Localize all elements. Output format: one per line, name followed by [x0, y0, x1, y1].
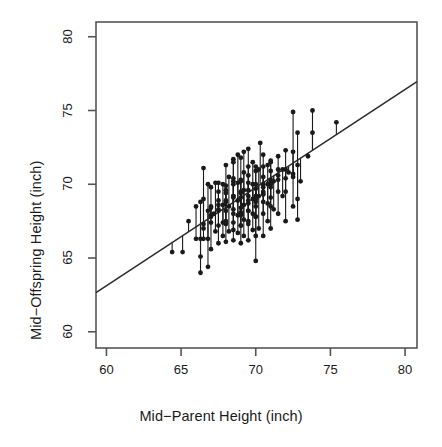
- data-point: [238, 189, 243, 194]
- data-point: [306, 154, 311, 159]
- data-point: [209, 214, 214, 219]
- data-point: [276, 177, 281, 182]
- data-point: [283, 176, 288, 181]
- data-point: [268, 169, 273, 174]
- data-point: [231, 238, 236, 243]
- data-point: [194, 236, 199, 241]
- data-point: [246, 173, 251, 178]
- data-point: [246, 238, 251, 243]
- data-point: [276, 173, 281, 178]
- data-point: [261, 164, 266, 169]
- data-point: [295, 163, 300, 168]
- data-point: [216, 223, 221, 228]
- data-point: [241, 149, 246, 154]
- data-point: [198, 254, 203, 259]
- data-point: [280, 194, 285, 199]
- data-point: [253, 204, 258, 209]
- data-point: [283, 219, 288, 224]
- data-point: [295, 197, 300, 202]
- data-point: [246, 188, 251, 193]
- y-axis-title: Mid−Offspring Height (inch): [28, 161, 44, 340]
- data-point: [271, 207, 276, 212]
- data-point: [180, 250, 185, 255]
- data-point: [250, 160, 255, 165]
- data-point: [261, 174, 266, 179]
- data-point: [291, 149, 296, 154]
- y-tick-label: 70: [60, 171, 75, 197]
- data-point: [246, 180, 251, 185]
- data-point: [291, 110, 296, 115]
- data-point: [223, 239, 228, 244]
- x-axis-title: Mid−Parent Height (inch): [0, 408, 442, 424]
- data-point: [310, 130, 315, 135]
- data-point: [310, 108, 315, 113]
- data-point: [334, 120, 339, 125]
- data-point: [223, 208, 228, 213]
- data-point: [253, 182, 258, 187]
- data-point: [223, 188, 228, 193]
- data-point: [216, 189, 221, 194]
- data-point: [231, 211, 236, 216]
- data-point: [201, 166, 206, 171]
- data-point: [194, 204, 199, 209]
- data-point: [276, 154, 281, 159]
- plot-canvas: [0, 0, 442, 447]
- x-tick-label: 65: [166, 362, 196, 377]
- data-point: [283, 167, 288, 172]
- data-point: [216, 180, 221, 185]
- data-point: [201, 236, 206, 241]
- x-tick-label: 75: [315, 362, 345, 377]
- data-point: [283, 148, 288, 153]
- data-point: [209, 220, 214, 225]
- data-point: [231, 228, 236, 233]
- x-tick-label: 80: [390, 362, 420, 377]
- data-point: [223, 219, 228, 224]
- data-point: [238, 211, 243, 216]
- data-point: [246, 194, 251, 199]
- data-point: [216, 208, 221, 213]
- data-point: [206, 236, 211, 241]
- data-point: [246, 198, 251, 203]
- data-point: [291, 172, 296, 177]
- data-point: [238, 195, 243, 200]
- data-point: [241, 217, 246, 222]
- data-point: [261, 152, 266, 157]
- data-point: [253, 197, 258, 202]
- data-point: [238, 205, 243, 210]
- data-point: [216, 241, 221, 246]
- data-point: [216, 203, 221, 208]
- data-point: [256, 226, 261, 231]
- data-point: [226, 204, 231, 209]
- data-point: [198, 270, 203, 275]
- y-axis-title-wrapper: Mid−Offspring Height (inch): [0, 0, 36, 370]
- data-point: [231, 207, 236, 212]
- data-point: [268, 158, 273, 163]
- data-point: [246, 146, 251, 151]
- data-point: [170, 250, 175, 255]
- data-point: [253, 233, 258, 238]
- data-point: [226, 174, 231, 179]
- data-point: [226, 229, 231, 234]
- y-tick-label: 75: [60, 97, 75, 123]
- data-point: [253, 214, 258, 219]
- data-point: [268, 185, 273, 190]
- data-point: [238, 223, 243, 228]
- data-point: [298, 179, 303, 184]
- data-point: [261, 189, 266, 194]
- data-point: [268, 195, 273, 200]
- data-point: [186, 219, 191, 224]
- y-tick-label: 60: [60, 318, 75, 344]
- data-point: [201, 226, 206, 231]
- x-tick-label: 60: [91, 362, 121, 377]
- data-point: [246, 164, 251, 169]
- data-point: [246, 219, 251, 224]
- data-point: [223, 163, 228, 168]
- y-tick-label: 80: [60, 23, 75, 49]
- data-point: [231, 194, 236, 199]
- data-point: [235, 231, 240, 236]
- data-point: [253, 169, 258, 174]
- scatter-plot-figure: Mid−Offspring Height (inch) Mid−Parent H…: [0, 0, 442, 447]
- data-point: [209, 204, 214, 209]
- data-point: [291, 204, 296, 209]
- data-point: [261, 200, 266, 205]
